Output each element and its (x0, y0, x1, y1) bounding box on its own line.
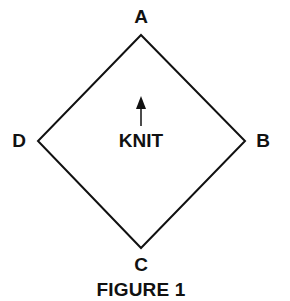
figure-caption: FIGURE 1 (96, 280, 185, 299)
knit-label: KNIT (119, 131, 163, 150)
vertex-label-b: B (256, 131, 270, 150)
vertex-label-d: D (12, 131, 26, 150)
arrow-up-icon (136, 96, 146, 126)
figure-canvas: A B C D KNIT FIGURE 1 (0, 0, 290, 301)
vertex-label-a: A (134, 7, 148, 26)
vertex-label-c: C (134, 255, 148, 274)
